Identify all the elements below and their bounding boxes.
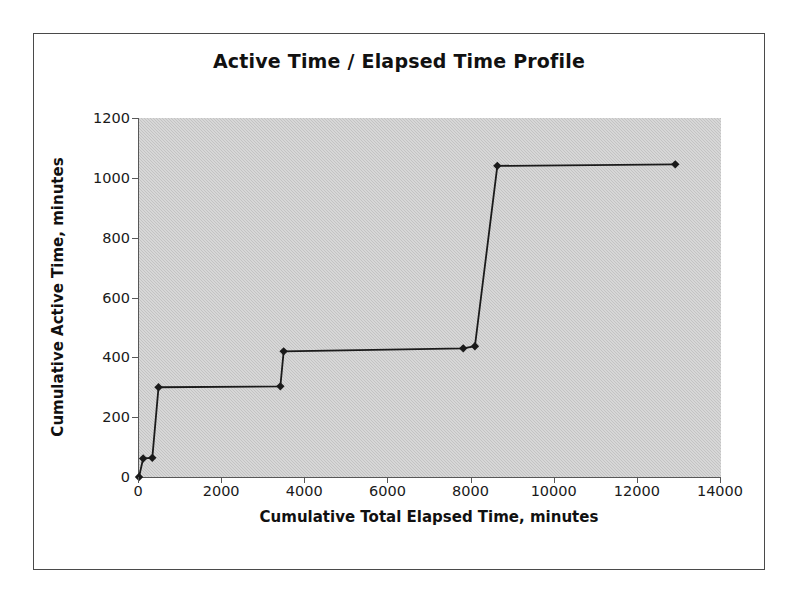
data-point-marker <box>279 347 287 355</box>
x-tick-label: 2000 <box>186 483 256 499</box>
data-point-marker <box>671 160 679 168</box>
y-tick-label: 600 <box>70 290 130 306</box>
y-tick-mark <box>132 417 138 418</box>
y-tick-mark <box>132 238 138 239</box>
x-tick-label: 12000 <box>602 483 672 499</box>
x-tick-label: 4000 <box>269 483 339 499</box>
y-tick-label: 1000 <box>70 170 130 186</box>
y-tick-label: 400 <box>70 349 130 365</box>
x-tick-mark <box>720 477 721 483</box>
x-tick-label: 14000 <box>685 483 755 499</box>
data-point-marker <box>471 342 479 350</box>
x-axis-tick-labels: 02000400060008000100001200014000 <box>138 483 720 507</box>
x-tick-label: 6000 <box>352 483 422 499</box>
plot-area <box>138 118 721 478</box>
x-tick-mark <box>387 477 388 483</box>
data-point-marker <box>493 162 501 170</box>
data-point-marker <box>459 344 467 352</box>
y-tick-label: 200 <box>70 409 130 425</box>
series-line <box>139 164 675 477</box>
y-tick-label: 800 <box>70 230 130 246</box>
data-point-marker <box>148 454 156 462</box>
y-tick-label: 1200 <box>70 110 130 126</box>
x-tick-mark <box>471 477 472 483</box>
x-tick-mark <box>554 477 555 483</box>
x-tick-label: 0 <box>103 483 173 499</box>
series-markers <box>135 160 680 481</box>
chart-title: Active Time / Elapsed Time Profile <box>33 50 765 72</box>
chart-figure: Active Time / Elapsed Time Profile Cumul… <box>0 0 799 605</box>
data-point-marker <box>154 383 162 391</box>
x-tick-mark <box>138 477 139 483</box>
x-tick-label: 8000 <box>436 483 506 499</box>
y-axis-title: Cumulative Active Time, minutes <box>49 117 67 477</box>
x-tick-mark <box>637 477 638 483</box>
y-tick-mark <box>132 178 138 179</box>
y-tick-mark <box>132 118 138 119</box>
x-axis-title: Cumulative Total Elapsed Time, minutes <box>138 508 720 526</box>
x-tick-label: 10000 <box>519 483 589 499</box>
y-tick-mark <box>132 298 138 299</box>
data-point-marker <box>276 382 284 390</box>
x-tick-mark <box>221 477 222 483</box>
x-tick-mark <box>304 477 305 483</box>
y-axis-tick-labels: 020040060080010001200 <box>68 118 130 477</box>
y-tick-mark <box>132 357 138 358</box>
data-point-marker <box>139 454 147 462</box>
data-series-layer <box>139 118 721 477</box>
